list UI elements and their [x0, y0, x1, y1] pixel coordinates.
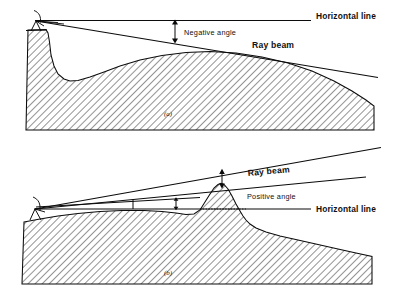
horizontal-line-label-a: Horizontal line — [316, 11, 376, 21]
panel-caption-b: (b) — [164, 269, 173, 277]
ray-beam-label-b: Ray beam — [247, 164, 290, 178]
terrain-left-shelf-a — [26, 30, 47, 31]
positive-angle-label: Positive angle — [247, 192, 296, 201]
negative-angle-label: Negative angle — [184, 28, 236, 37]
terrain-profile-a — [26, 30, 374, 131]
panel-b: Ray beam Positive angle Horizontal line … — [22, 148, 381, 285]
horizontal-line-label-b: Horizontal line — [316, 204, 376, 214]
figure-canvas: Horizontal line Negative angle Ray beam … — [0, 0, 401, 288]
terrain-profile-b — [22, 183, 372, 284]
negative-angle-arrow — [172, 20, 178, 44]
ray-beam-label-a: Ray beam — [252, 40, 294, 50]
panel-a: Horizontal line Negative angle Ray beam … — [26, 11, 378, 131]
ray-beam-angle-figure: Horizontal line Negative angle Ray beam … — [0, 0, 401, 288]
panel-caption-a: (a) — [164, 110, 173, 118]
